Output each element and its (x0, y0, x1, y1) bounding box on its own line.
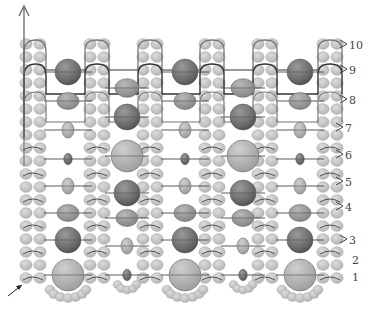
seed-bead (213, 260, 225, 271)
seed-bead (317, 221, 329, 232)
seed-bead (84, 156, 96, 167)
seed-bead (252, 234, 264, 245)
seed-bead (151, 143, 163, 154)
seed-bead (98, 182, 110, 193)
seed-bead (266, 130, 278, 141)
seed-bead (20, 130, 32, 141)
seed-bead (98, 104, 110, 115)
seed-bead (199, 104, 211, 115)
row-label: 1 (352, 271, 359, 284)
seed-bead (137, 130, 149, 141)
seed-bead (20, 143, 32, 154)
seed-bead (20, 260, 32, 271)
seed-bead (317, 130, 329, 141)
seed-bead (34, 143, 46, 154)
seed-bead (20, 182, 32, 193)
seed-bead (317, 247, 329, 258)
seed-bead (98, 130, 110, 141)
seed-bead (151, 156, 163, 167)
seed-bead (199, 182, 211, 193)
seed-bead (84, 143, 96, 154)
seed-bead (213, 208, 225, 219)
seed-bead (84, 117, 96, 128)
seed-bead (137, 169, 149, 180)
seed-bead (34, 78, 46, 89)
seed-bead (199, 117, 211, 128)
seed-bead (84, 195, 96, 206)
seed-bead (151, 273, 163, 284)
seed-bead (84, 221, 96, 232)
seed-bead (34, 104, 46, 115)
seed-bead (151, 234, 163, 245)
seed-bead (98, 143, 110, 154)
seed-bead (34, 65, 46, 76)
seed-bead (213, 143, 225, 154)
seed-bead (317, 182, 329, 193)
seed-bead (98, 260, 110, 271)
seed-bead (266, 104, 278, 115)
seed-bead (151, 130, 163, 141)
seed-bead (98, 221, 110, 232)
seed-bead (34, 182, 46, 193)
seed-bead (98, 52, 110, 63)
seed-bead (20, 221, 32, 232)
seed-bead (199, 260, 211, 271)
seed-bead (266, 273, 278, 284)
seed-bead (98, 169, 110, 180)
seed-bead (266, 247, 278, 258)
seed-bead (266, 221, 278, 232)
seed-bead (199, 156, 211, 167)
seed-bead (198, 285, 208, 294)
seed-bead (213, 195, 225, 206)
seed-bead (34, 169, 46, 180)
row-label: 6 (345, 149, 352, 162)
seed-bead (199, 234, 211, 245)
seed-bead (137, 52, 149, 63)
seed-bead (317, 234, 329, 245)
seed-bead (20, 273, 32, 284)
seed-bead (20, 52, 32, 63)
seed-bead (331, 143, 343, 154)
seed-bead (252, 169, 264, 180)
seed-bead (34, 195, 46, 206)
seed-bead (266, 143, 278, 154)
seed-bead (331, 52, 343, 63)
seed-bead (98, 273, 110, 284)
seed-bead (151, 169, 163, 180)
seed-bead (266, 260, 278, 271)
seed-bead (331, 273, 343, 284)
seed-bead (84, 130, 96, 141)
seed-bead (98, 117, 110, 128)
seed-bead (98, 156, 110, 167)
seed-bead (84, 104, 96, 115)
seed-bead (151, 260, 163, 271)
seed-bead (331, 260, 343, 271)
seed-bead (199, 52, 211, 63)
seed-bead (213, 273, 225, 284)
seed-bead (199, 143, 211, 154)
seed-bead (34, 130, 46, 141)
row-label: 9 (349, 64, 356, 77)
seed-bead (317, 169, 329, 180)
seed-bead (84, 234, 96, 245)
seed-bead (34, 221, 46, 232)
seed-bead (84, 169, 96, 180)
seed-bead (313, 285, 323, 294)
seed-bead (137, 208, 149, 219)
seed-bead (213, 117, 225, 128)
seed-bead (34, 156, 46, 167)
seed-bead (252, 130, 264, 141)
seed-bead (151, 182, 163, 193)
seed-bead (34, 117, 46, 128)
seed-bead (137, 260, 149, 271)
seed-bead (20, 169, 32, 180)
seed-bead (98, 208, 110, 219)
seed-bead (34, 247, 46, 258)
seed-bead (317, 156, 329, 167)
seed-bead (252, 52, 264, 63)
seed-bead (34, 273, 46, 284)
seed-bead (81, 285, 91, 294)
seed-bead (98, 247, 110, 258)
seed-bead (20, 195, 32, 206)
seed-bead (317, 104, 329, 115)
